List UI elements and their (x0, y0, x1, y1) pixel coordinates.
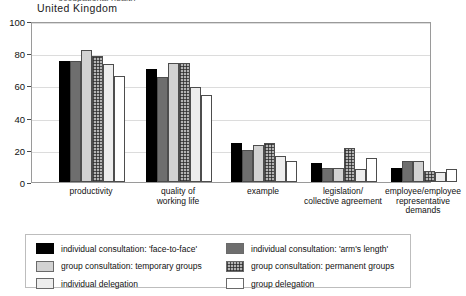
bar[interactable] (435, 172, 446, 182)
y-axis-tick-label: 20 (1, 145, 25, 156)
bar-group (391, 23, 457, 182)
y-axis-tick-label: 80 (1, 49, 25, 60)
bar[interactable] (275, 156, 286, 182)
legend-item[interactable]: group consultation: permanent groups (226, 259, 394, 274)
bar[interactable] (157, 77, 168, 182)
bar[interactable] (322, 168, 333, 182)
bar[interactable] (81, 50, 92, 182)
bar[interactable] (114, 76, 125, 182)
legend-column-left: individual consultation: 'face-to-face' … (36, 241, 202, 294)
legend-label: individual delegation (61, 279, 138, 289)
bar[interactable] (264, 143, 275, 182)
legend-item[interactable]: individual delegation (36, 276, 202, 291)
legend-swatch-individual-delegation (36, 278, 54, 289)
legend-swatch-permanent-groups (226, 261, 244, 272)
legend-label: group consultation: temporary groups (61, 261, 202, 271)
bar[interactable] (242, 150, 253, 182)
bar-group (311, 23, 377, 182)
legend-item[interactable]: individual consultation: 'face-to-face' (36, 241, 202, 256)
bar[interactable] (413, 161, 424, 182)
bar[interactable] (366, 158, 377, 182)
bar-group (146, 23, 212, 182)
bar[interactable] (59, 61, 70, 182)
bar[interactable] (333, 168, 344, 182)
bar[interactable] (146, 69, 157, 182)
chart-subtitle: United Kingdom (37, 2, 117, 14)
bar[interactable] (446, 169, 457, 182)
bar[interactable] (179, 63, 190, 182)
bar[interactable] (253, 145, 264, 182)
bar[interactable] (168, 63, 179, 182)
y-axis-tick-mark (27, 183, 31, 184)
bar[interactable] (344, 148, 355, 182)
bar[interactable] (402, 161, 413, 182)
legend-swatch-temporary-groups (36, 261, 54, 272)
bar[interactable] (231, 143, 242, 182)
bar[interactable] (70, 61, 81, 182)
legend-label: individual consultation: 'face-to-face' (61, 244, 197, 254)
bar[interactable] (391, 168, 402, 182)
legend-item[interactable]: group consultation: temporary groups (36, 259, 202, 274)
bar[interactable] (201, 95, 212, 182)
bar-group (231, 23, 297, 182)
bar[interactable] (355, 169, 366, 182)
plot-area (31, 22, 431, 183)
legend-item[interactable]: group delegation (226, 276, 394, 291)
legend-column-right: individual consultation: 'arm's length' … (226, 241, 394, 294)
bar[interactable] (103, 64, 114, 182)
chart-legend: individual consultation: 'face-to-face' … (25, 234, 411, 288)
legend-swatch-group-delegation (226, 278, 244, 289)
legend-swatch-arms-length (226, 243, 244, 254)
bar[interactable] (92, 56, 103, 182)
x-axis-label: employee/employee representative demands (368, 187, 466, 216)
bar-group (59, 23, 125, 182)
legend-label: group consultation: permanent groups (251, 261, 394, 271)
bar[interactable] (311, 163, 322, 182)
y-axis-tick-label: 100 (1, 17, 25, 28)
bar[interactable] (286, 161, 297, 182)
y-axis-tick-label: 60 (1, 81, 25, 92)
y-axis-tick-label: 40 (1, 113, 25, 124)
y-axis-tick-label: 0 (1, 178, 25, 189)
bar[interactable] (190, 87, 201, 182)
legend-label: group delegation (251, 279, 314, 289)
bar[interactable] (424, 171, 435, 182)
legend-label: individual consultation: 'arm's length' (251, 244, 388, 254)
legend-swatch-face-to-face (36, 243, 54, 254)
legend-item[interactable]: individual consultation: 'arm's length' (226, 241, 394, 256)
